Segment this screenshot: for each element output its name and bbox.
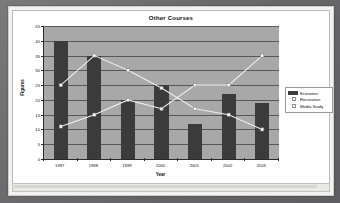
legend-item[interactable]: Recreation (288, 97, 330, 103)
x-tick-mark (177, 158, 178, 161)
x-tick-mark (244, 158, 245, 161)
legend-swatch-icon (288, 98, 298, 102)
y-tick-label: 45 (35, 24, 40, 29)
x-axis-title: Year (43, 172, 278, 177)
plot-area (43, 26, 279, 160)
line-marker (193, 84, 196, 87)
x-tick-label: 2000 (156, 163, 165, 168)
y-tick-label: 5 (38, 142, 40, 147)
line-marker (261, 54, 264, 57)
x-tick-label: 1998 (89, 163, 98, 168)
x-tick-label: 1999 (122, 163, 131, 168)
line-marker (93, 113, 96, 116)
chart-title: Other Courses (13, 14, 329, 22)
line-marker (227, 84, 230, 87)
x-tick-mark (43, 158, 44, 161)
x-tick-mark (211, 158, 212, 161)
y-tick-label: 40 (35, 38, 40, 43)
page-scrollbar-thumb[interactable] (14, 185, 317, 188)
line-marker (160, 107, 163, 110)
y-tick-label: 30 (35, 68, 40, 73)
line-marker (261, 128, 264, 131)
x-tick-label: 2002 (223, 163, 232, 168)
line-marker (59, 125, 62, 128)
line-path (61, 56, 262, 130)
line-marker (126, 69, 129, 72)
y-tick-label: 20 (35, 97, 40, 102)
line-marker (193, 107, 196, 110)
x-tick-mark (144, 158, 145, 161)
y-tick-label: 0 (38, 157, 40, 162)
legend-item[interactable]: Media Study (288, 103, 330, 109)
y-tick-label: 15 (35, 112, 40, 117)
document-page: Other Courses Figures 051015202530354045… (8, 6, 334, 196)
y-tick-label: 25 (35, 83, 40, 88)
legend-item[interactable]: Economic (288, 90, 330, 96)
x-tick-mark (77, 158, 78, 161)
page-scrollbar[interactable] (12, 183, 330, 192)
line-marker (126, 98, 129, 101)
x-tick-label: 2001 (189, 163, 198, 168)
x-tick-mark (110, 158, 111, 161)
legend-swatch-icon (288, 91, 298, 95)
legend-item-label: Economic (300, 91, 318, 96)
line-series-layer (44, 26, 279, 159)
x-tick-label: 1997 (55, 163, 64, 168)
legend-swatch-icon (288, 104, 298, 108)
legend-item-label: Recreation (300, 97, 320, 102)
line-marker (227, 113, 230, 116)
y-tick-label: 35 (35, 53, 40, 58)
line-marker (160, 86, 163, 89)
x-tick-label: 2003 (257, 163, 266, 168)
line-marker (93, 54, 96, 57)
chart-legend[interactable]: EconomicRecreationMedia Study (285, 87, 333, 113)
chart-object[interactable]: Other Courses Figures 051015202530354045… (12, 10, 330, 184)
x-tick-mark (278, 158, 279, 161)
legend-item-label: Media Study (300, 104, 323, 109)
y-axis: 051015202530354045 (13, 26, 43, 159)
y-tick-label: 10 (35, 127, 40, 132)
line-marker (59, 84, 62, 87)
